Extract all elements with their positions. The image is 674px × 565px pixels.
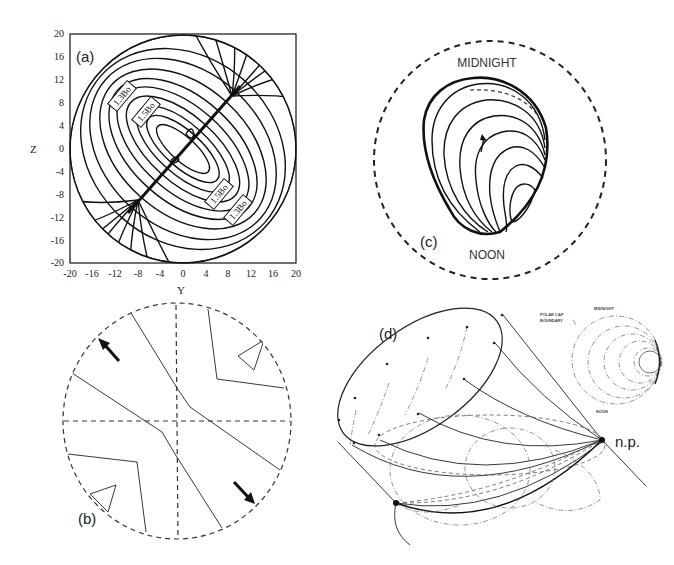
x-tick: 12 (246, 268, 256, 279)
y-tick: 8 (59, 97, 64, 108)
np-label: n.p. (615, 433, 640, 450)
north-pole-point (599, 437, 605, 443)
inset-midnight-label: MIDNIGHT (594, 306, 614, 311)
cone-opening (314, 281, 526, 474)
y-tick: -12 (51, 212, 64, 223)
y-tick: 20 (54, 28, 64, 39)
inset-boundary-label: POLAR CAP (540, 312, 564, 317)
panel-b: (b) (63, 303, 291, 539)
x-axis-ticks: -20 -16 -12 -8 -4 0 4 8 12 16 20 (63, 268, 301, 279)
y-axis-label: Z (30, 143, 37, 155)
panel-c: MIDNIGHT NOON (c) (374, 41, 606, 279)
y-tick: 0 (59, 143, 64, 154)
arrow-down-right-icon (234, 482, 255, 504)
neutral-point (393, 500, 399, 506)
x-tick: -16 (85, 268, 98, 279)
x-tick: -12 (108, 268, 121, 279)
x-tick: 20 (291, 268, 301, 279)
x-axis-label: Y (177, 284, 185, 296)
x-tick: -8 (134, 268, 142, 279)
arrow-up-left-icon (98, 338, 119, 361)
inset-noon-label: NOON (596, 409, 608, 414)
inset-polar-cap: POLAR CAP BOUNDARY MIDNIGHT NOON (540, 306, 662, 414)
convection-contours (424, 78, 548, 234)
x-tick: 4 (204, 268, 209, 279)
y-tick: -20 (51, 257, 64, 268)
panel-a: 20 16 12 8 4 0 -4 -8 -12 -16 -20 Z -20 -… (30, 7, 326, 296)
outer-dashed-circle (374, 41, 606, 279)
y-tick: 12 (54, 74, 64, 85)
panel-label-b: (b) (78, 510, 96, 527)
figure: 20 16 12 8 4 0 -4 -8 -12 -16 -20 Z -20 -… (0, 0, 674, 565)
y-tick: 4 (59, 120, 64, 131)
y-axis-ticks: 20 16 12 8 4 0 -4 -8 -12 -16 -20 (51, 28, 64, 268)
y-tick: -16 (51, 235, 64, 246)
x-tick: -20 (63, 268, 76, 279)
x-tick: 16 (268, 268, 278, 279)
x-tick: 0 (181, 268, 186, 279)
inset-boundary-label: BOUNDARY (540, 318, 563, 323)
noon-label: NOON (469, 248, 505, 262)
panel-label-c: (c) (420, 233, 438, 250)
y-tick: 16 (54, 51, 64, 62)
x-tick: -4 (156, 268, 164, 279)
y-tick: -4 (56, 166, 64, 177)
contour-label: 1.5Bo (132, 97, 160, 128)
panel-d: (d) (314, 281, 662, 545)
midnight-label: MIDNIGHT (457, 56, 517, 70)
x-tick: 8 (226, 268, 231, 279)
y-tick: -8 (56, 189, 64, 200)
panel-label-a: (a) (76, 48, 94, 65)
